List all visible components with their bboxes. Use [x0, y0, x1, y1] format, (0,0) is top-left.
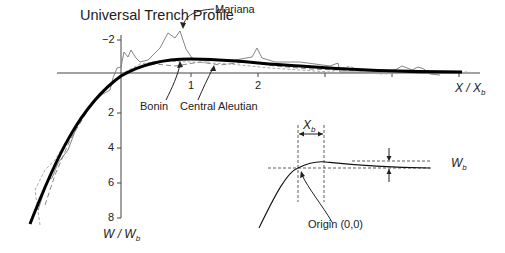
- y-tick-6: 6: [108, 176, 114, 188]
- label-central-aleutian: Central Aleutian: [180, 100, 258, 112]
- x-tick-1: 1: [188, 79, 194, 91]
- inset-origin-label: Origin (0,0): [308, 218, 363, 230]
- trench-profile-plot: [0, 0, 505, 253]
- y-tick-neg2: −2: [102, 33, 115, 45]
- inset-wb-label: Wb: [451, 156, 467, 172]
- y-tick-4: 4: [108, 141, 114, 153]
- y-tick-8: 8: [108, 211, 114, 223]
- x-tick-2: 2: [255, 79, 261, 91]
- x-axis-label: X / Xb: [455, 81, 485, 97]
- inset-diagram: [259, 125, 432, 228]
- y-tick-2: 2: [108, 106, 114, 118]
- y-axis-label: W / Wb: [103, 227, 140, 243]
- inset-xb-label: Xb: [303, 118, 315, 134]
- label-mariana: Mariana: [215, 3, 255, 15]
- label-bonin: Bonin: [140, 100, 168, 112]
- universal-profile-line: [30, 59, 462, 224]
- central-aleutian-line: [35, 61, 470, 225]
- mariana-line: [38, 31, 440, 210]
